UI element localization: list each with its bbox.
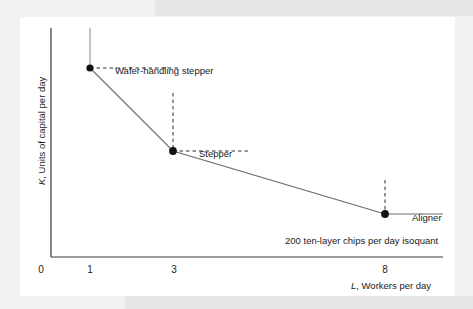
x-tick-label-0: 0 <box>31 265 51 275</box>
x-tick-label-8: 8 <box>375 265 395 275</box>
data-point-wafer-handling-stepper[interactable] <box>86 64 93 71</box>
y-axis-title-symbol: K <box>36 179 47 185</box>
isoquant-plot <box>20 17 455 296</box>
label-wafer-handling-stepper: Wafer-handling stepper <box>115 66 213 76</box>
y-axis-title: K, Units of capital per day <box>37 77 47 185</box>
y-axis-title-rest: , Units of capital per day <box>36 77 47 179</box>
data-point-stepper[interactable] <box>169 147 177 155</box>
label-stepper: Stepper <box>199 149 232 159</box>
page-bottom-band <box>125 296 473 309</box>
data-point-aligner[interactable] <box>381 210 389 218</box>
label-aligner: Aligner <box>412 213 442 223</box>
page-top-band <box>155 0 473 16</box>
x-tick-label-1: 1 <box>80 265 100 275</box>
x-axis-title: L, Workers per day <box>351 281 431 291</box>
chart-card: Wafer-handling stepper Stepper Aligner 2… <box>20 17 455 296</box>
isoquant-polyline <box>90 68 385 214</box>
x-tick-label-3: 3 <box>164 265 184 275</box>
x-axis-title-rest: , Workers per day <box>356 280 431 291</box>
figure-root: Wafer-handling stepper Stepper Aligner 2… <box>0 0 473 309</box>
label-isoquant-caption: 200 ten-layer chips per day isoquant <box>285 236 438 246</box>
